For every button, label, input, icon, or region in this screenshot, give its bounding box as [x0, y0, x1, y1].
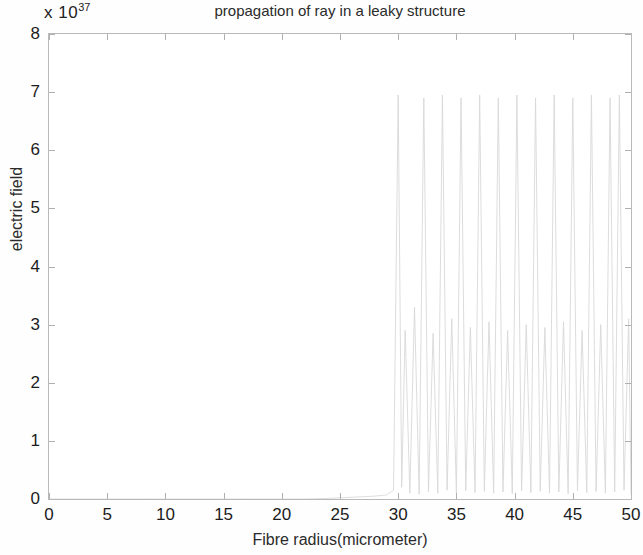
x-axis-tick-mark: [340, 493, 341, 499]
x-axis-tick-label: 20: [262, 505, 302, 525]
y-axis-tick-label: 8: [10, 24, 40, 44]
y-axis-tick-mark: [625, 383, 631, 384]
x-axis-tick-mark: [456, 493, 457, 499]
y-axis-tick-mark: [49, 150, 55, 151]
y-axis-tick-mark: [625, 325, 631, 326]
y-axis-tick-mark: [625, 267, 631, 268]
x-axis-tick-label: 50: [611, 505, 643, 525]
x-axis-title: Fibre radius(micrometer): [48, 531, 632, 549]
y-axis-tick-mark: [625, 92, 631, 93]
x-axis-tick-mark: [49, 34, 50, 40]
y-axis-tick-mark: [49, 499, 55, 500]
y-axis-tick-label: 5: [10, 198, 40, 218]
x-axis-tick-label: 0: [29, 505, 69, 525]
y-axis-tick-mark: [625, 150, 631, 151]
x-axis-tick-label: 30: [378, 505, 418, 525]
x-axis-tick-label: 25: [320, 505, 360, 525]
y-axis-tick-mark: [625, 499, 631, 500]
y-axis-tick-mark: [625, 441, 631, 442]
y-axis-tick-label: 1: [10, 431, 40, 451]
plot-axes-box: [48, 33, 632, 500]
x-axis-tick-mark: [282, 493, 283, 499]
x-axis-tick-label: 10: [145, 505, 185, 525]
x-axis-tick-label: 40: [495, 505, 535, 525]
y-axis-tick-mark: [49, 383, 55, 384]
x-axis-tick-mark: [515, 493, 516, 499]
x-axis-tick-mark: [282, 34, 283, 40]
y-axis-tick-label: 7: [10, 82, 40, 102]
y-axis-tick-mark: [625, 208, 631, 209]
y-axis-tick-mark: [49, 208, 55, 209]
x-axis-tick-mark: [107, 493, 108, 499]
x-axis-tick-mark: [165, 493, 166, 499]
x-axis-tick-mark: [224, 493, 225, 499]
data-trace-layer: [49, 34, 631, 499]
x-axis-tick-mark: [398, 493, 399, 499]
x-axis-tick-mark: [224, 34, 225, 40]
electric-field-trace: [49, 95, 631, 499]
x-axis-tick-label: 45: [553, 505, 593, 525]
x-axis-tick-mark: [165, 34, 166, 40]
y-axis-tick-label: 6: [10, 140, 40, 160]
x-axis-tick-mark: [573, 34, 574, 40]
x-axis-tick-mark: [398, 34, 399, 40]
x-axis-tick-mark: [49, 493, 50, 499]
x-axis-tick-label: 35: [436, 505, 476, 525]
y-axis-tick-label: 3: [10, 315, 40, 335]
x-axis-tick-mark: [107, 34, 108, 40]
y-axis-tick-label: 2: [10, 373, 40, 393]
x-axis-tick-mark: [631, 493, 632, 499]
y-axis-tick-label: 4: [10, 257, 40, 277]
x-axis-tick-mark: [515, 34, 516, 40]
x-axis-tick-label: 5: [87, 505, 127, 525]
matlab-figure-window: x 1037 propagation of ray in a leaky str…: [0, 0, 643, 555]
x-axis-tick-mark: [456, 34, 457, 40]
x-axis-tick-mark: [573, 493, 574, 499]
x-axis-tick-mark: [631, 34, 632, 40]
y-axis-tick-mark: [49, 267, 55, 268]
y-axis-tick-mark: [49, 441, 55, 442]
y-axis-tick-mark: [49, 325, 55, 326]
y-axis-tick-mark: [49, 92, 55, 93]
x-axis-tick-label: 15: [204, 505, 244, 525]
x-axis-tick-mark: [340, 34, 341, 40]
page-title: propagation of ray in a leaky structure: [48, 2, 632, 19]
